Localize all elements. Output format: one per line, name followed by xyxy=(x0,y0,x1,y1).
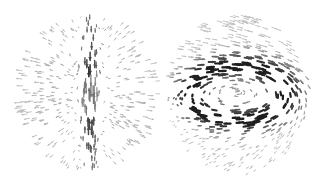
vector-arrow xyxy=(62,156,64,159)
vector-arrow xyxy=(23,89,28,91)
vector-arrow xyxy=(129,93,133,95)
vector-arrow xyxy=(96,71,98,77)
vector-arrow xyxy=(253,153,255,154)
vector-arrow xyxy=(221,103,224,104)
vector-arrow xyxy=(255,25,260,27)
vector-arrow xyxy=(279,124,282,126)
vector-arrow xyxy=(85,60,88,68)
vector-arrow xyxy=(104,150,105,151)
vector-arrow xyxy=(249,23,254,25)
vector-arrow xyxy=(71,87,72,88)
vector-arrow xyxy=(204,84,207,85)
vector-arrow xyxy=(64,121,66,122)
vector-arrow xyxy=(206,128,210,130)
vector-arrow xyxy=(308,85,310,88)
vector-arrow xyxy=(280,92,282,95)
vector-arrow xyxy=(277,140,279,142)
vector-arrow xyxy=(286,141,288,143)
vector-arrow xyxy=(206,105,209,106)
vector-arrow xyxy=(229,27,234,29)
vector-arrow xyxy=(70,100,71,101)
vector-arrow xyxy=(288,147,290,149)
vector-arrow xyxy=(239,22,244,24)
vector-arrow xyxy=(256,155,258,156)
vector-arrow xyxy=(219,69,226,72)
vector-arrow xyxy=(51,27,54,29)
vector-arrow xyxy=(287,110,289,113)
vector-arrow xyxy=(237,121,244,124)
vector-arrow xyxy=(218,98,220,99)
vector-arrow xyxy=(182,141,184,142)
vector-arrow xyxy=(297,117,298,120)
vector-arrow xyxy=(48,40,51,42)
vector-arrow xyxy=(38,76,42,78)
vector-arrow xyxy=(210,129,214,131)
vector-arrow xyxy=(62,128,64,129)
vector-arrow xyxy=(203,148,205,149)
vector-arrow xyxy=(124,121,127,122)
vector-arrow xyxy=(123,147,126,149)
vector-arrow xyxy=(96,88,98,95)
vector-arrow xyxy=(64,161,66,164)
vector-arrow xyxy=(222,86,225,87)
vector-arrow xyxy=(292,134,294,136)
vector-arrow xyxy=(276,94,277,97)
vector-arrow xyxy=(84,163,85,165)
vector-arrow xyxy=(246,167,248,168)
vector-arrow xyxy=(178,49,182,50)
vector-arrow xyxy=(112,124,114,125)
vector-arrow xyxy=(148,95,153,97)
vector-arrow xyxy=(67,99,69,100)
vector-arrow xyxy=(73,151,74,153)
vector-arrow xyxy=(205,38,210,39)
vector-arrow xyxy=(296,92,298,96)
vector-arrow xyxy=(105,117,106,118)
vector-arrow xyxy=(240,159,242,160)
vector-arrow xyxy=(223,38,228,39)
vector-arrow xyxy=(242,39,247,41)
vector-arrow xyxy=(124,78,127,79)
vector-arrow xyxy=(198,64,204,67)
vortex-vector-field-panel xyxy=(160,0,320,183)
vector-arrow xyxy=(43,38,47,40)
vector-arrow xyxy=(73,36,74,38)
vector-arrow xyxy=(71,131,72,132)
vector-arrow xyxy=(117,86,119,87)
vector-arrow xyxy=(40,33,44,35)
vector-arrow xyxy=(194,59,199,61)
vector-arrow xyxy=(58,130,60,131)
vector-arrow xyxy=(216,123,221,125)
vector-arrow xyxy=(68,133,70,135)
vector-arrow xyxy=(235,74,241,77)
vector-arrow xyxy=(53,101,56,102)
vector-arrow xyxy=(289,141,291,143)
vector-arrow xyxy=(276,142,278,144)
radial-vector-field-panel xyxy=(0,0,160,183)
vector-arrow xyxy=(120,23,123,26)
vector-arrow xyxy=(186,139,188,140)
vector-arrow xyxy=(93,145,95,150)
vector-arrow xyxy=(182,80,185,82)
vector-arrow xyxy=(54,104,57,105)
vector-arrow xyxy=(170,72,173,74)
vector-arrow xyxy=(242,36,247,38)
vector-arrow xyxy=(246,82,250,84)
vector-arrow xyxy=(50,155,53,157)
vector-arrow xyxy=(104,145,105,146)
vector-arrow xyxy=(305,91,307,94)
vector-arrow xyxy=(251,110,256,112)
vector-arrow xyxy=(182,117,184,118)
vector-arrow xyxy=(216,166,218,167)
vector-arrow xyxy=(131,46,135,48)
vector-arrow xyxy=(294,123,295,125)
vector-arrow xyxy=(257,60,264,63)
vector-arrow xyxy=(239,166,241,167)
vector-arrow xyxy=(16,78,22,80)
vector-arrow xyxy=(224,24,229,26)
vector-arrow xyxy=(63,140,65,142)
vector-arrow xyxy=(292,89,294,93)
vector-arrow xyxy=(50,61,53,62)
vector-arrow xyxy=(230,87,233,89)
vector-arrow xyxy=(241,92,242,93)
vector-arrow xyxy=(123,68,126,69)
